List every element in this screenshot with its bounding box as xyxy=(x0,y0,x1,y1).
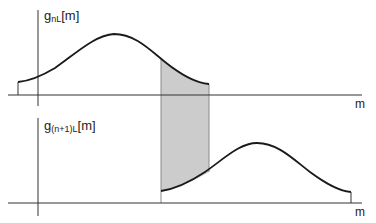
top-y-label: gnL[m] xyxy=(44,8,79,24)
bottom-x-label: m xyxy=(355,205,365,219)
window-overlap-diagram: gnL[m] m g(n+1)L[m] m xyxy=(0,0,376,223)
overlap-shaded-region xyxy=(161,59,209,191)
bottom-y-label: g(n+1)L[m] xyxy=(44,118,96,134)
top-x-label: m xyxy=(355,97,365,111)
